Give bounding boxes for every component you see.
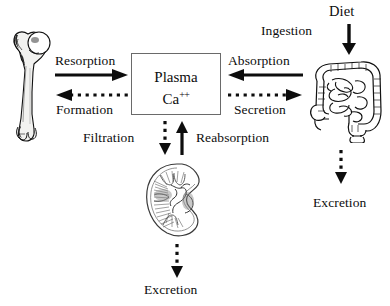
diet-label: Diet — [329, 4, 354, 19]
calcium-symbol: Ca — [163, 91, 180, 107]
calcium-label: Ca++ — [132, 90, 220, 107]
filtration-arrow — [158, 120, 172, 156]
reabsorption-label: Reabsorption — [196, 131, 269, 145]
plasma-label: Plasma — [132, 70, 220, 85]
secretion-arrow — [226, 88, 304, 102]
reabsorption-arrow — [175, 120, 189, 156]
kidney-excretion-arrow — [170, 243, 184, 279]
intestine-colon-illustration — [305, 55, 389, 143]
kidney-cross-section-illustration — [141, 161, 215, 239]
diagram-canvas: Plasma Ca++ Resorption Formation Absorpt… — [0, 0, 390, 306]
absorption-arrow — [226, 68, 304, 82]
resorption-arrow — [54, 68, 130, 82]
diet-ingestion-arrow — [341, 23, 357, 56]
formation-label: Formation — [56, 103, 113, 117]
secretion-label: Secretion — [234, 103, 286, 117]
ingestion-label: Ingestion — [261, 24, 312, 38]
intestine-excretion-arrow — [334, 149, 348, 185]
resorption-label: Resorption — [55, 54, 115, 68]
calcium-charge: ++ — [179, 89, 189, 100]
intestine-excretion-label: Excretion — [313, 196, 366, 210]
femur-bone-illustration — [6, 26, 58, 144]
formation-arrow — [54, 88, 130, 102]
filtration-label: Filtration — [83, 131, 134, 145]
plasma-calcium-box: Plasma Ca++ — [131, 53, 221, 115]
absorption-label: Absorption — [228, 54, 290, 68]
kidney-excretion-label: Excretion — [144, 283, 197, 297]
